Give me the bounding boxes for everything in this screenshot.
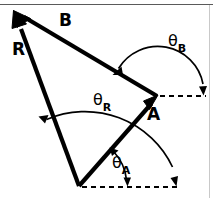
theta-r-arc-arrowhead-horizontal [171,176,179,187]
vector-diagram-figure: B R A θB θR θA [0,0,213,198]
theta-a-arc-arrowhead-horizontal [124,178,132,187]
theta-b-subscript: B [178,42,186,55]
theta-b-arc-arrowhead-horizontal [199,86,207,96]
vector-r-shaft [21,29,79,186]
theta-a-subscript: A [122,164,131,177]
theta-a-symbol: θ [112,153,122,172]
theta-a-label: θA [112,155,130,174]
theta-b-label: θB [168,33,186,52]
vector-r-label: R [12,41,25,58]
vector-b-shaft [24,17,157,96]
vector-b-label: B [59,12,72,29]
theta-b-symbol: θ [168,31,178,50]
theta-r-label: θR [93,92,111,111]
vector-a-label: A [147,106,160,123]
theta-r-subscript: R [103,101,111,114]
theta-r-symbol: θ [93,90,103,109]
